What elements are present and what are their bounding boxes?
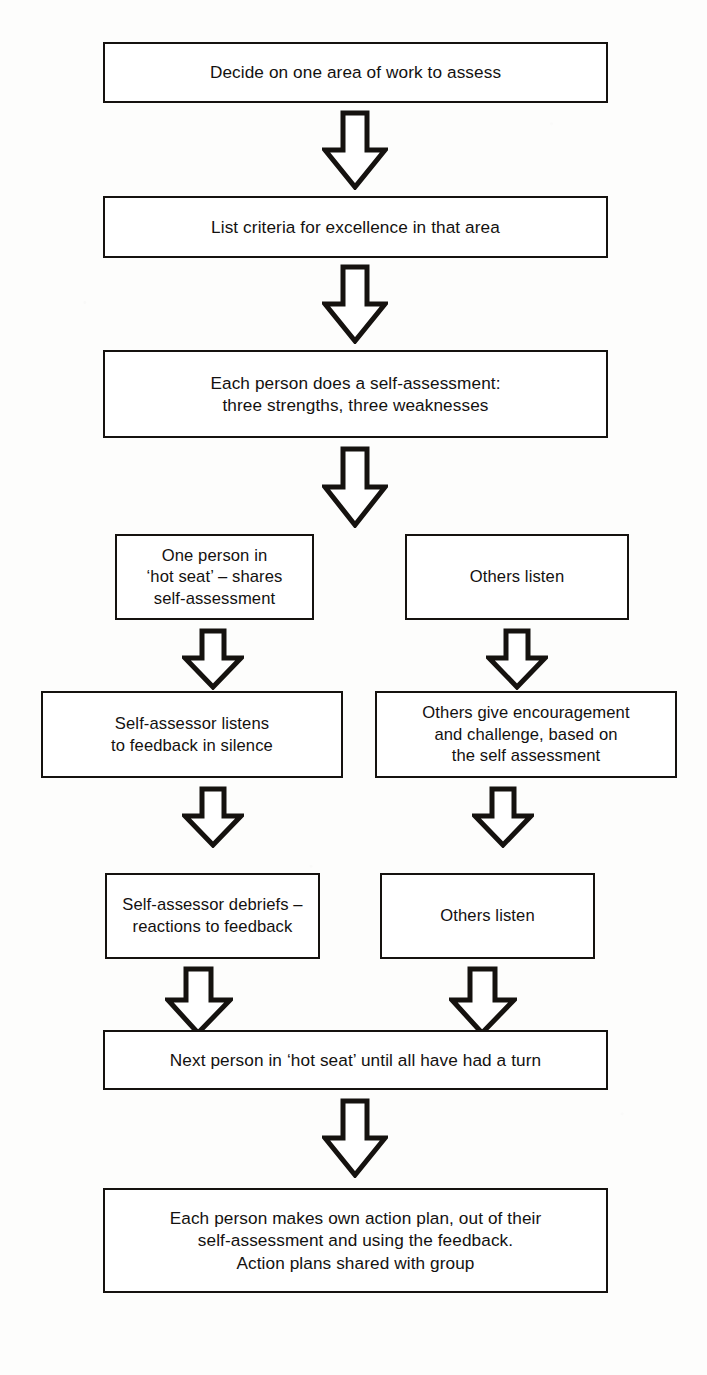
arrow-encouragement-to-otherslisten: [472, 786, 534, 848]
node-hot-seat-shares: One person in ‘hot seat’ – shares self-a…: [115, 534, 314, 620]
down-arrow-icon: [472, 786, 534, 848]
node-others-listen-2: Others listen: [380, 873, 595, 959]
down-arrow-icon: [322, 110, 388, 190]
node-list-criteria: List criteria for excellence in that are…: [103, 196, 608, 258]
node-listens-in-silence-label: Self-assessor listens to feedback in sil…: [111, 713, 273, 756]
arrow-silence-to-debriefs: [182, 786, 244, 848]
node-others-give-encouragement-label: Others give encouragement and challenge,…: [422, 702, 629, 767]
node-hot-seat-shares-label: One person in ‘hot seat’ – shares self-a…: [147, 545, 283, 610]
node-action-plan: Each person makes own action plan, out o…: [103, 1188, 608, 1293]
arrow-otherslisten-to-encouragement: [486, 628, 548, 690]
down-arrow-icon: [322, 264, 388, 344]
arrow-otherslisten2-to-nextperson: [449, 966, 517, 1036]
arrow-hotseat-to-listens: [182, 628, 244, 690]
arrow-decide-to-criteria: [322, 110, 388, 190]
node-decide-area: Decide on one area of work to assess: [103, 42, 608, 103]
node-others-give-encouragement: Others give encouragement and challenge,…: [375, 691, 677, 778]
arrow-debriefs-to-nextperson: [165, 966, 233, 1036]
down-arrow-icon: [322, 1098, 388, 1178]
node-listens-in-silence: Self-assessor listens to feedback in sil…: [41, 691, 343, 778]
node-debriefs-reactions-label: Self-assessor debriefs – reactions to fe…: [122, 894, 302, 937]
down-arrow-icon: [322, 446, 388, 528]
down-arrow-icon: [449, 966, 517, 1036]
node-others-listen-1-label: Others listen: [470, 566, 564, 588]
node-debriefs-reactions: Self-assessor debriefs – reactions to fe…: [105, 873, 320, 959]
arrow-selfassessment-to-hotseat: [322, 446, 388, 528]
flowchart-canvas: Decide on one area of work to assess Lis…: [0, 0, 707, 1375]
node-next-person-label: Next person in ‘hot seat’ until all have…: [170, 1049, 541, 1071]
down-arrow-icon: [182, 628, 244, 690]
down-arrow-icon: [165, 966, 233, 1036]
node-others-listen-2-label: Others listen: [440, 905, 534, 927]
node-others-listen-1: Others listen: [405, 534, 629, 620]
node-list-criteria-label: List criteria for excellence in that are…: [211, 216, 500, 238]
node-next-person: Next person in ‘hot seat’ until all have…: [103, 1030, 608, 1090]
node-self-assessment: Each person does a self-assessment: thre…: [103, 350, 608, 438]
node-self-assessment-label: Each person does a self-assessment: thre…: [210, 372, 500, 416]
node-action-plan-label: Each person makes own action plan, out o…: [170, 1207, 542, 1274]
down-arrow-icon: [486, 628, 548, 690]
arrow-criteria-to-selfassessment: [322, 264, 388, 344]
node-decide-area-label: Decide on one area of work to assess: [210, 61, 501, 83]
arrow-nextperson-to-actionplan: [322, 1098, 388, 1178]
down-arrow-icon: [182, 786, 244, 848]
